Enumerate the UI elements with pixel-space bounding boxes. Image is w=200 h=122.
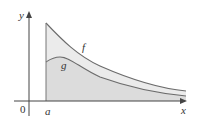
a-label: a [45,106,51,117]
x-axis-label: x [181,105,186,116]
origin-label: 0 [20,104,26,115]
y-axis-label: y [19,10,24,21]
curve-g-label: g [61,60,67,71]
area-diagram [0,0,200,122]
diagram-canvas: y x 0 a f g [0,0,200,122]
curve-f-label: f [82,42,85,53]
y-axis-arrow-icon [26,11,32,18]
